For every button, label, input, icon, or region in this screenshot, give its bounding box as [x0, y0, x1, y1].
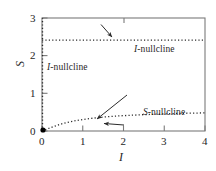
label-suffix-s: -nullcline	[148, 107, 185, 117]
x-tick-label-0: 0	[39, 136, 45, 147]
y-tick-label-2: 2	[30, 50, 36, 61]
y-tick-label-0: 0	[30, 126, 36, 137]
label-suffix-i-horizontal: -nullcline	[137, 44, 174, 54]
y-axis-title: S	[13, 61, 28, 67]
arrow-to-horizontal-i-nullcline	[101, 25, 112, 38]
plot-canvas	[0, 0, 216, 171]
nullcline-phase-plane-figure: 0 1 2 3 4 0 1 2 3 I S I-nullcline I-null…	[0, 0, 216, 171]
label-s-nullcline: S-nullcline	[143, 107, 185, 117]
x-tick-label-3: 3	[161, 136, 167, 147]
label-i-nullcline-horizontal: I-nullcline	[134, 44, 175, 54]
x-axis-title: I	[119, 150, 123, 165]
arrow-to-s-nullcline-horizontal	[104, 124, 124, 126]
x-tick-label-4: 4	[202, 136, 208, 147]
y-tick-label-1: 1	[30, 88, 36, 99]
label-i-nullcline-vertical: I-nullcline	[47, 62, 88, 72]
x-tick-label-1: 1	[80, 136, 86, 147]
label-suffix-i-vertical: -nullcline	[50, 62, 87, 72]
equilibrium-point-origin	[40, 127, 45, 132]
x-axis-ticks	[42, 126, 205, 132]
x-tick-label-2: 2	[121, 136, 127, 147]
annotation-arrows	[97, 25, 127, 126]
y-tick-label-3: 3	[30, 13, 36, 24]
